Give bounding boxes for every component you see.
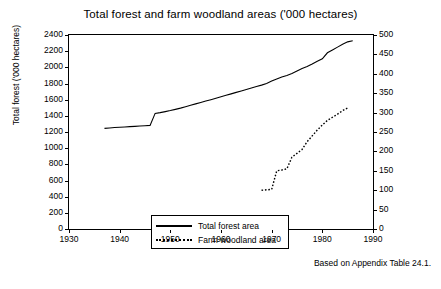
y-tick-left-1400: 1400: [30, 111, 63, 120]
tick-mark: [374, 35, 377, 36]
x-tick-1930: 1930: [51, 235, 87, 244]
y-tick-left-1600: 1600: [30, 95, 63, 104]
y-tick-right-300: 300: [379, 108, 407, 117]
series-line-farm-woodland: [262, 108, 348, 190]
tick-mark: [374, 229, 377, 230]
tick-mark: [65, 197, 68, 198]
tick-mark: [374, 54, 377, 55]
y-tick-left-1800: 1800: [30, 79, 63, 88]
y-tick-right-400: 400: [379, 69, 407, 78]
tick-mark: [374, 190, 377, 191]
tick-mark: [374, 151, 377, 152]
y-tick-left-2000: 2000: [30, 62, 63, 71]
y-tick-left-1200: 1200: [30, 127, 63, 136]
y-tick-left-1000: 1000: [30, 143, 63, 152]
legend-label-total-forest: Total forest area: [198, 219, 259, 233]
tick-mark: [65, 67, 68, 68]
x-tick-1990: 1990: [355, 235, 391, 244]
y-tick-right-250: 250: [379, 127, 407, 136]
tick-mark: [65, 164, 68, 165]
tick-mark: [65, 132, 68, 133]
x-tick-1970: 1970: [254, 235, 290, 244]
tick-mark: [374, 171, 377, 172]
y-tick-right-350: 350: [379, 88, 407, 97]
y-tick-left-800: 800: [30, 159, 63, 168]
y-tick-left-400: 400: [30, 192, 63, 201]
chart-figure: Total forest and farm woodland areas ('0…: [0, 0, 441, 289]
tick-mark: [374, 113, 377, 114]
tick-mark: [373, 230, 374, 233]
tick-mark: [65, 229, 68, 230]
series-line-total-forest: [104, 41, 352, 129]
y-tick-right-150: 150: [379, 166, 407, 175]
x-tick-1940: 1940: [102, 235, 138, 244]
tick-mark: [120, 230, 121, 233]
y-tick-left-2200: 2200: [30, 46, 63, 55]
tick-mark: [374, 132, 377, 133]
tick-mark: [69, 230, 70, 233]
y-tick-right-50: 50: [379, 205, 407, 214]
tick-mark: [65, 181, 68, 182]
x-tick-1960: 1960: [203, 235, 239, 244]
tick-mark: [322, 230, 323, 233]
tick-mark: [65, 84, 68, 85]
chart-title: Total forest and farm woodland areas ('0…: [0, 8, 441, 20]
tick-mark: [65, 51, 68, 52]
tick-mark: [221, 230, 222, 233]
y-tick-right-100: 100: [379, 185, 407, 194]
tick-mark: [374, 210, 377, 211]
plot-area: Total forest area Farm woodland area: [68, 34, 374, 230]
y-tick-left-0: 0: [30, 224, 63, 233]
tick-mark: [374, 93, 377, 94]
tick-mark: [170, 230, 171, 233]
y-tick-right-0: 0: [379, 224, 407, 233]
y-tick-left-2400: 2400: [30, 30, 63, 39]
tick-mark: [272, 230, 273, 233]
tick-mark: [65, 213, 68, 214]
y-tick-right-450: 450: [379, 49, 407, 58]
y-tick-left-200: 200: [30, 208, 63, 217]
x-tick-1950: 1950: [152, 235, 188, 244]
tick-mark: [374, 74, 377, 75]
y-tick-right-500: 500: [379, 30, 407, 39]
tick-mark: [65, 100, 68, 101]
x-tick-1980: 1980: [304, 235, 340, 244]
series-lines: [69, 35, 373, 229]
y-tick-left-600: 600: [30, 176, 63, 185]
tick-mark: [65, 148, 68, 149]
y-tick-right-200: 200: [379, 146, 407, 155]
tick-mark: [65, 35, 68, 36]
source-note: Based on Appendix Table 24.1.: [314, 258, 431, 268]
plot-inner: [69, 35, 373, 229]
legend-sample-solid: [156, 225, 192, 227]
y-axis-label-left: Total forest ('000 hectares): [11, 0, 21, 155]
tick-mark: [65, 116, 68, 117]
